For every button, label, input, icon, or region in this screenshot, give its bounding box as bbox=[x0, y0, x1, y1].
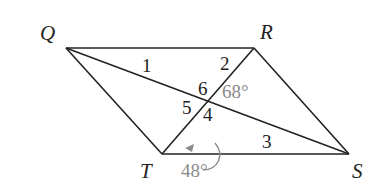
angle-label-6: 6 bbox=[198, 78, 208, 99]
angle-label-1: 1 bbox=[142, 55, 152, 76]
arrowhead-icon bbox=[185, 144, 194, 152]
vertex-label-Q: Q bbox=[40, 21, 55, 45]
vertex-label-S: S bbox=[352, 159, 363, 179]
angle-label-5: 5 bbox=[182, 97, 192, 118]
angle-label-3: 3 bbox=[262, 131, 272, 152]
parallelogram-diagram: Q R S T 1 2 3 4 5 6 68° 48° bbox=[0, 0, 376, 179]
given-angle-48: 48° bbox=[181, 160, 208, 179]
angle-label-2: 2 bbox=[220, 53, 230, 74]
vertex-label-T: T bbox=[140, 159, 153, 179]
given-angle-68: 68° bbox=[222, 81, 249, 102]
parallelogram-edges bbox=[66, 48, 349, 154]
vertex-label-R: R bbox=[259, 20, 273, 44]
angle-label-4: 4 bbox=[203, 104, 213, 125]
diagram-svg: Q R S T 1 2 3 4 5 6 68° 48° bbox=[0, 0, 376, 179]
